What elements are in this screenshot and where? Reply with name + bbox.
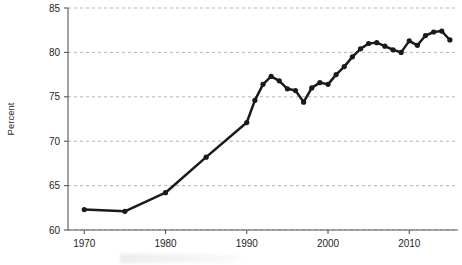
x-tick-label: 2010 — [398, 238, 421, 249]
y-tick-label: 80 — [49, 47, 61, 58]
x-tick-label: 1980 — [154, 238, 177, 249]
data-point — [122, 209, 127, 214]
x-tick-label: 2000 — [317, 238, 340, 249]
line-chart: 606570758085 19701980199020002010 Percen… — [0, 0, 462, 265]
x-tick-label: 1970 — [73, 238, 96, 249]
data-point — [423, 33, 428, 38]
data-point — [277, 78, 282, 83]
data-point — [447, 37, 452, 42]
data-point — [285, 86, 290, 91]
y-tick-label: 75 — [49, 91, 61, 102]
data-point — [342, 64, 347, 69]
y-tick-label: 70 — [49, 136, 61, 147]
data-point — [382, 44, 387, 49]
data-point — [325, 82, 330, 87]
y-tick-label: 85 — [49, 3, 61, 14]
data-point — [399, 50, 404, 55]
data-point — [244, 120, 249, 125]
data-point — [260, 82, 265, 87]
x-tick-label: 1990 — [236, 238, 259, 249]
chart-figure: 606570758085 19701980199020002010 Percen… — [0, 0, 462, 265]
data-point — [293, 88, 298, 93]
data-point — [431, 29, 436, 34]
data-point — [366, 41, 371, 46]
data-point — [407, 38, 412, 43]
data-point — [163, 190, 168, 195]
data-point — [390, 47, 395, 52]
data-point — [317, 80, 322, 85]
data-point — [301, 100, 306, 105]
chart-background — [0, 0, 462, 265]
data-point — [252, 98, 257, 103]
data-point — [309, 85, 314, 90]
data-point — [269, 74, 274, 79]
data-point — [334, 72, 339, 77]
data-point — [358, 46, 363, 51]
data-point — [204, 155, 209, 160]
y-axis-label: Percent — [5, 102, 16, 135]
y-tick-label: 65 — [49, 180, 61, 191]
data-point — [350, 54, 355, 59]
data-point — [415, 43, 420, 48]
data-point — [374, 40, 379, 45]
y-tick-label: 60 — [49, 225, 61, 236]
data-point — [439, 28, 444, 33]
data-point — [82, 207, 87, 212]
